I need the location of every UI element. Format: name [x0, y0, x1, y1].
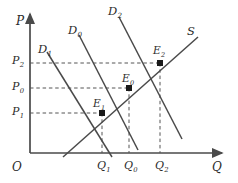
equilibrium-label-E2-subscript: 2: [161, 51, 165, 59]
curve-label-demand-2-base: D: [108, 4, 117, 18]
price-tick-P0-subscript: 0: [20, 87, 24, 95]
curve-label-demand-0-base: D: [68, 23, 77, 37]
price-tick-P1: P1: [12, 106, 24, 117]
quantity-tick-Q1: Q1: [97, 160, 110, 171]
equilibrium-label-E0-subscript: 0: [130, 79, 134, 87]
diagram-canvas: [0, 0, 238, 183]
price-tick-P2-base: P: [12, 54, 19, 67]
supply-demand-figure: P Q O D1D0D2SP2P0P1Q1Q0Q2E1E0E2: [0, 0, 238, 183]
quantity-tick-Q0-subscript: 0: [133, 166, 137, 174]
quantity-tick-Q1-base: Q: [97, 159, 106, 172]
quantity-tick-Q0: Q0: [124, 160, 137, 171]
price-tick-P0-base: P: [12, 80, 19, 93]
price-tick-P1-subscript: 1: [20, 112, 24, 120]
curve-demand-0: [79, 35, 138, 150]
curve-supply: [63, 37, 198, 157]
curve-label-demand-2: D2: [108, 6, 122, 18]
price-tick-P2-subscript: 2: [20, 61, 24, 69]
equilibrium-label-E0-base: E: [122, 72, 130, 84]
curve-label-demand-0: D0: [68, 25, 82, 37]
origin-label: O: [12, 161, 22, 173]
equilibrium-label-E1-subscript: 1: [101, 104, 105, 112]
price-tick-P0: P0: [12, 81, 24, 92]
curve-label-demand-1: D1: [38, 44, 52, 56]
quantity-tick-Q0-base: Q: [124, 159, 133, 172]
quantity-tick-Q2: Q2: [155, 160, 168, 171]
equilibrium-label-E1: E1: [93, 98, 105, 109]
curve-label-demand-2-subscript: 2: [118, 11, 123, 20]
curve-label-demand-0-subscript: 0: [78, 30, 83, 39]
x-axis-label: Q: [212, 161, 222, 173]
equilibrium-label-E2-base: E: [153, 44, 161, 56]
equilibrium-label-E0: E0: [122, 73, 134, 84]
price-tick-P2: P2: [12, 55, 24, 66]
y-axis-label: P: [16, 15, 24, 27]
curve-label-supply-base: S: [187, 24, 195, 38]
equilibrium-label-E1-base: E: [93, 97, 101, 109]
equilibrium-label-E2: E2: [153, 45, 165, 56]
quantity-tick-Q2-subscript: 2: [164, 166, 168, 174]
equilibrium-marker-E2: [157, 60, 163, 66]
curve-label-supply: S: [187, 26, 195, 38]
curve-label-demand-1-subscript: 1: [48, 49, 53, 58]
quantity-tick-Q2-base: Q: [155, 159, 164, 172]
curves-group: [47, 17, 198, 157]
curve-label-demand-1-base: D: [38, 42, 47, 56]
quantity-tick-Q1-subscript: 1: [106, 166, 110, 174]
price-tick-P1-base: P: [12, 105, 19, 118]
